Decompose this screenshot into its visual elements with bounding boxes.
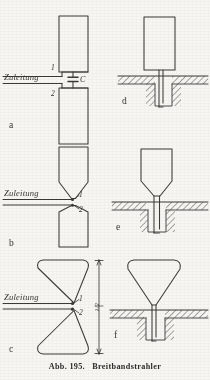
panel-e-radiator: [141, 149, 172, 196]
panel-a-letter: a: [9, 120, 14, 130]
panel-e-ground-left: [112, 202, 146, 210]
panel-c-terminal-2-dot: [71, 308, 74, 311]
panel-d-ground-left: [118, 76, 155, 84]
figure-caption-label: Abb. 195.: [49, 362, 85, 371]
panel-f-ground-right: [165, 310, 208, 318]
figure-broadband-radiator: Zuleitung 1 2 C a Zuleitung 1 2 b Zuleit…: [0, 0, 210, 380]
panel-d-ground-right: [172, 76, 208, 84]
panel-a-lower-element: [59, 88, 88, 144]
panel-d-letter: d: [122, 96, 127, 106]
panel-f-drawing: [110, 260, 208, 341]
panel-d-drawing: [118, 17, 208, 107]
panel-c-lower-element: [38, 311, 89, 355]
panel-b-letter: b: [9, 238, 14, 248]
panel-c-feed-label: Zuleitung: [4, 292, 39, 302]
panel-a-capacitor-symbol: [68, 72, 78, 88]
panel-e-letter: e: [116, 222, 120, 232]
panel-d-radiator: [144, 17, 175, 70]
panel-c-dimension-label: λ/2: [93, 302, 100, 312]
panel-f-radiator: [128, 260, 181, 305]
panel-c-terminal-2-label: 2: [79, 308, 83, 317]
panel-b-lower-element: [59, 206, 88, 248]
panel-a-capacitor-label: C: [80, 75, 86, 84]
panel-a-terminal-2-label: 2: [51, 89, 55, 98]
panel-a-upper-element: [59, 16, 88, 72]
panel-b-feed-line: [3, 200, 72, 206]
panel-b-upper-element: [59, 147, 88, 199]
panel-b-feed-label: Zuleitung: [4, 188, 39, 198]
panel-f-ground-left: [110, 310, 144, 318]
panel-b-terminal-2-dot: [71, 204, 74, 207]
panel-c-drawing: [3, 260, 103, 354]
panel-c-terminal-1-dot: [71, 302, 74, 305]
panel-c-letter: c: [9, 344, 13, 354]
panel-b-terminal-1-label: 1: [79, 190, 83, 199]
panel-a-terminal-1-label: 1: [51, 63, 55, 72]
panel-b-terminal-1-dot: [71, 198, 74, 201]
figure-drawing: Zuleitung 1 2 C a Zuleitung 1 2 b Zuleit…: [0, 0, 210, 380]
panel-c-terminal-1-label: 1: [79, 294, 83, 303]
figure-caption: Abb. 195. Breitbandstrahler: [0, 362, 210, 371]
panel-f-letter: f: [114, 330, 118, 340]
figure-caption-title: Breitbandstrahler: [92, 362, 161, 371]
panel-c-feed-line: [3, 304, 72, 310]
panel-e-ground-right: [166, 202, 208, 210]
panel-b-terminal-2-label: 2: [79, 205, 83, 214]
panel-a-feed-label: Zuleitung: [4, 72, 39, 82]
panel-e-drawing: [112, 149, 208, 233]
